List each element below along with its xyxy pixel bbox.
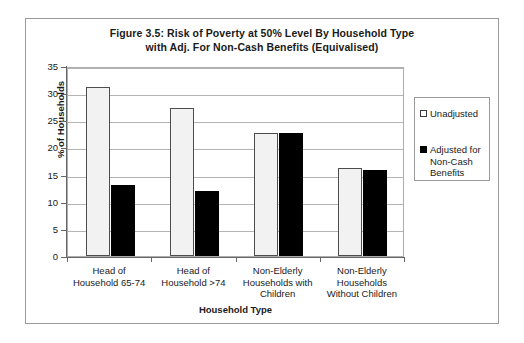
category-label-line: Head of [151, 265, 235, 277]
category-label-1: Head ofHousehold >74 [151, 265, 235, 288]
gridline [68, 149, 403, 150]
category-label-3: Non-ElderlyHouseholdsWithout Children [320, 265, 404, 300]
y-tick-label: 10 [36, 198, 58, 207]
category-label-line: Head of [67, 265, 151, 277]
chart-title-line-2: with Adj. For Non-Cash Benefits (Equival… [26, 40, 498, 54]
plot-area [67, 67, 404, 257]
x-tick-mark [404, 257, 405, 262]
y-tick-label: 0 [36, 252, 58, 261]
bar-adjusted-0 [111, 185, 135, 256]
figure-frame: Figure 3.5: Risk of Poverty at 50% Level… [25, 18, 499, 324]
category-label-0: Head ofHousehold 65-74 [67, 265, 151, 288]
gridline [68, 68, 403, 69]
y-tick-mark [61, 67, 66, 68]
category-label-line: Without Children [320, 288, 404, 300]
category-label-line: Household >74 [151, 277, 235, 289]
category-label-line: Households [320, 277, 404, 289]
y-tick-mark [61, 94, 66, 95]
legend-label-line: Benefits [430, 167, 481, 179]
bar-adjusted-2 [279, 133, 303, 256]
y-tick-mark [61, 203, 66, 204]
chart-title-line-1: Figure 3.5: Risk of Poverty at 50% Level… [26, 26, 498, 40]
y-tick-label: 30 [36, 89, 58, 98]
legend-swatch-adjusted [420, 146, 427, 153]
category-label-line: Children [236, 288, 320, 300]
y-tick-label: 25 [36, 116, 58, 125]
y-tick-label: 35 [36, 62, 58, 71]
category-label-line: Households with [236, 277, 320, 289]
y-tick-label: 15 [36, 171, 58, 180]
y-tick-mark [61, 230, 66, 231]
bar-unadjusted-1 [170, 108, 194, 256]
x-tick-mark [151, 257, 152, 262]
gridline [68, 95, 403, 96]
x-axis-title: Household Type [67, 304, 404, 315]
legend-entry-0: Unadjusted [420, 108, 478, 120]
y-tick-label: 5 [36, 225, 58, 234]
y-tick-mark [61, 257, 66, 258]
y-tick-mark [61, 148, 66, 149]
legend-label-line: Adjusted for [430, 144, 481, 156]
category-label-line: Household 65-74 [67, 277, 151, 289]
bar-adjusted-3 [363, 170, 387, 256]
category-label-2: Non-ElderlyHouseholds withChildren [236, 265, 320, 300]
legend-swatch-unadjusted [420, 110, 427, 117]
chart-title: Figure 3.5: Risk of Poverty at 50% Level… [26, 26, 498, 54]
y-tick-mark [61, 176, 66, 177]
x-tick-mark [320, 257, 321, 262]
category-label-line: Non-Elderly [236, 265, 320, 277]
y-tick-label: 20 [36, 143, 58, 152]
category-label-line: Non-Elderly [320, 265, 404, 277]
y-tick-mark [61, 121, 66, 122]
chart-legend: UnadjustedAdjusted forNon-CashBenefits [414, 97, 490, 181]
legend-label-line: Non-Cash [430, 156, 481, 168]
legend-label-line: Unadjusted [430, 108, 478, 120]
x-tick-mark [67, 257, 68, 262]
legend-entry-1: Adjusted forNon-CashBenefits [420, 144, 481, 179]
bar-unadjusted-3 [338, 168, 362, 256]
bar-adjusted-1 [195, 191, 219, 256]
gridline [68, 122, 403, 123]
x-tick-mark [236, 257, 237, 262]
bar-unadjusted-0 [86, 87, 110, 256]
legend-label: Unadjusted [430, 108, 478, 120]
legend-label: Adjusted forNon-CashBenefits [430, 144, 481, 179]
bar-unadjusted-2 [254, 133, 278, 256]
